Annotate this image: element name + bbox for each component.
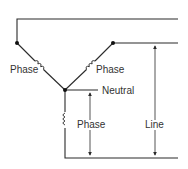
neutral-node xyxy=(63,88,67,92)
label-phase-right: Phase xyxy=(96,65,124,75)
phase-winding-bottom xyxy=(63,112,67,128)
line-conductor-top xyxy=(17,19,178,43)
label-phase-bottom: Phase xyxy=(77,120,105,130)
label-line: Line xyxy=(145,120,164,130)
label-neutral: Neutral xyxy=(102,86,134,96)
node-left xyxy=(15,41,19,45)
node-right xyxy=(111,41,115,45)
label-phase-left: Phase xyxy=(10,65,38,75)
wye-connection-diagram xyxy=(0,0,188,169)
